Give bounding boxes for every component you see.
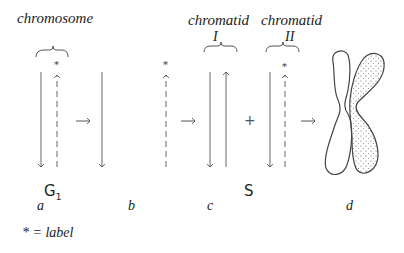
label-chromatid-2: chromatid xyxy=(261,12,322,29)
panel-c-chromatid-2: * xyxy=(266,42,299,167)
chromatid-unlabeled xyxy=(325,51,351,175)
label-chromatid-2-numeral: II xyxy=(285,29,294,45)
label-chromatid-1-numeral: I xyxy=(213,29,218,45)
phase-g1-letter: G xyxy=(44,182,56,200)
panel-c-chromatid-1 xyxy=(204,42,237,167)
brace-chromosome xyxy=(36,46,68,57)
panel-b-strands: * xyxy=(102,59,168,167)
label-chromosome: chromosome xyxy=(17,10,93,27)
legend-label: * = label xyxy=(22,225,73,241)
panel-label-a: a xyxy=(37,198,44,214)
diagram-canvas: * * * xyxy=(0,0,404,253)
phase-label-s: S xyxy=(244,182,254,200)
label-star-b: * xyxy=(163,59,168,70)
plus-sign: + xyxy=(244,112,256,128)
chromatid-labeled xyxy=(350,53,384,173)
metaphase-chromosome xyxy=(325,51,384,175)
phase-g1-subscript: 1 xyxy=(56,192,62,202)
panel-label-d: d xyxy=(346,198,353,214)
panel-label-c: c xyxy=(207,198,213,214)
phase-label-g1: G1 xyxy=(44,182,61,202)
label-star-a: * xyxy=(54,59,59,70)
brace-chromatid-1 xyxy=(204,42,237,52)
panel-label-b: b xyxy=(128,198,135,214)
label-star-c: * xyxy=(282,61,287,72)
panel-a-strands: * xyxy=(36,46,68,167)
label-chromatid-1: chromatid xyxy=(188,12,249,29)
